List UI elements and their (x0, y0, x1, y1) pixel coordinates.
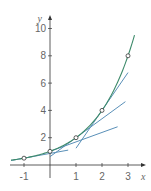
y-tick-label: 2 (40, 132, 46, 143)
data-point (100, 108, 104, 112)
x-tick-label: 3 (125, 171, 131, 182)
x-tick-label: 2 (99, 171, 105, 182)
y-axis-label: y (37, 13, 43, 24)
x-axis-label: x (140, 171, 146, 182)
axes (10, 15, 146, 178)
data-point (126, 54, 130, 58)
exponential-curve (11, 35, 135, 160)
tangent-line (50, 102, 125, 157)
tick-labels: -1123x246810y (20, 13, 146, 182)
y-axis-arrow-icon (48, 15, 52, 20)
data-points (22, 54, 130, 160)
data-point (74, 136, 78, 140)
y-tick-label: 4 (40, 105, 46, 116)
y-tick-label: 6 (40, 78, 46, 89)
data-point (48, 149, 52, 153)
series-lines (11, 35, 135, 160)
y-tick-label: 8 (40, 50, 46, 61)
x-tick-label: 1 (73, 171, 79, 182)
y-tick-label: 10 (35, 23, 47, 34)
x-tick-label: -1 (20, 171, 29, 182)
x-axis-arrow-icon (141, 163, 146, 167)
data-point (22, 156, 26, 160)
exponential-chart: -1123x246810y (0, 0, 151, 191)
